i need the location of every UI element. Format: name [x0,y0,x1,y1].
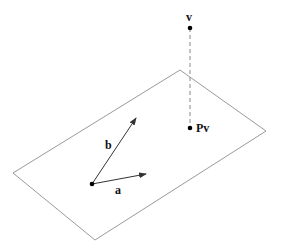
projection-diagram: v Pv a b [0,0,281,249]
point-pv [188,126,193,131]
diagram-canvas [0,0,281,249]
vector-b-arrow [92,118,136,184]
label-v: v [186,11,192,23]
origin-point [90,182,95,187]
label-vector-b: b [105,139,112,151]
plane-outline [13,70,266,240]
label-vector-a: a [115,184,121,196]
label-pv: Pv [196,122,209,134]
point-v [188,26,193,31]
